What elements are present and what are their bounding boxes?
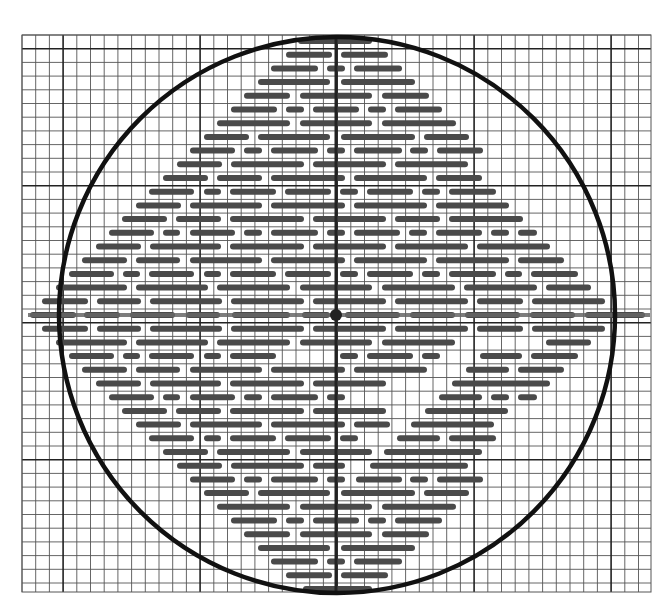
diagram-canvas xyxy=(0,0,668,607)
center-dot xyxy=(330,309,342,321)
grid-circle-diagram xyxy=(0,0,668,607)
